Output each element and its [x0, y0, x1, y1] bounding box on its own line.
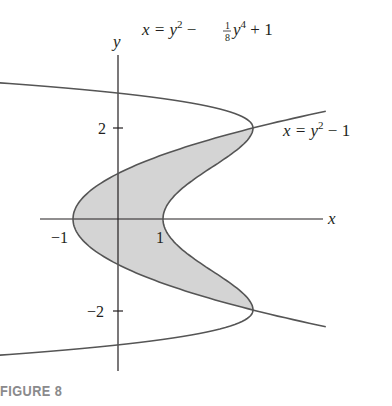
inner-curve-label: x = y2 − 1: [282, 119, 350, 140]
svg-text:y4 + 1: y4 + 1: [231, 18, 273, 39]
x-tick-label-1: 1: [156, 229, 164, 246]
figure-caption: FIGURE 8: [0, 382, 62, 399]
y-axis-label: y: [111, 32, 121, 51]
svg-text:x = y2 −: x = y2 −: [141, 18, 196, 39]
y-tick-label-2: 2: [98, 120, 106, 137]
outer-curve-label: x = y2 − 1 8 y4 + 1: [141, 18, 273, 43]
svg-text:1: 1: [225, 20, 230, 31]
y-tick-label-neg2: −2: [87, 303, 104, 320]
x-axis-label: x: [327, 209, 336, 228]
svg-text:8: 8: [225, 32, 230, 43]
x-tick-label-neg1: −1: [51, 229, 68, 246]
region-between-curves-graph: y x −1 1 2 −2 x = y2 − 1 8 y4 + 1 x = y2…: [0, 0, 392, 380]
